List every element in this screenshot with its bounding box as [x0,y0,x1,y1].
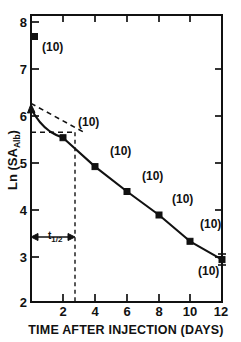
x-tick-8: 8 [155,304,162,319]
x-tick-4: 4 [91,304,99,319]
plot-canvas: 8 7 6 5 4 3 2 [0,0,241,342]
data-point-6 [219,257,225,263]
y-tick-4: 4 [20,203,28,218]
data-point-5 [187,238,193,244]
x-axis-tick-labels: 2 4 6 8 10 12 [59,304,228,319]
point-label-5: (10) [200,217,221,231]
svg-text:Ln (SAAlb): Ln (SAAlb) [5,130,22,190]
point-label-0: (10) [42,40,63,54]
x-tick-10: 10 [183,304,197,319]
half-life-annotation: t1/2 [31,230,75,244]
y-tick-6: 6 [20,109,27,124]
half-life-arrow-right [68,234,75,241]
y-axis-title: Ln (SAAlb) [5,130,22,190]
y-tick-3: 3 [20,250,27,265]
half-life-label: t1/2 [48,230,63,244]
data-point-1 [60,135,66,141]
y-axis-title-main: Ln (SA [5,148,20,190]
half-life-label-sub: 1/2 [51,235,63,244]
y-axis-ticks [31,22,39,302]
point-label-3: (10) [142,169,163,183]
point-label-2: (10) [110,144,131,158]
x-axis-ticks [63,294,222,302]
y-axis-tick-labels: 8 7 6 5 4 3 2 [20,15,28,310]
top-axis-ticks [63,15,190,22]
y-tick-2: 2 [20,295,27,310]
data-point-labels: (10) (10) (10) (10) (10) (10) (10) [42,40,221,278]
point-label-6: (10) [198,264,219,278]
x-axis-title: TIME AFTER INJECTION (DAYS) [28,323,223,337]
y-tick-7: 7 [20,62,27,77]
x-tick-2: 2 [59,304,66,319]
plot-frame [31,15,222,302]
data-point-2 [92,164,98,170]
data-point-4 [156,212,162,218]
point-label-4: (10) [172,192,193,206]
x-tick-6: 6 [123,304,130,319]
half-life-arrow-left [31,234,38,241]
y-axis-title-close: ) [5,130,20,134]
point-label-1: (10) [78,115,99,129]
data-point-0 [32,34,38,40]
y-tick-5: 5 [20,156,27,171]
chart-figure: 8 7 6 5 4 3 2 [0,0,241,342]
data-point-3 [124,189,130,195]
y-tick-8: 8 [20,15,27,30]
y-axis-title-subscript: Alb [12,134,22,148]
x-tick-12: 12 [214,304,228,319]
